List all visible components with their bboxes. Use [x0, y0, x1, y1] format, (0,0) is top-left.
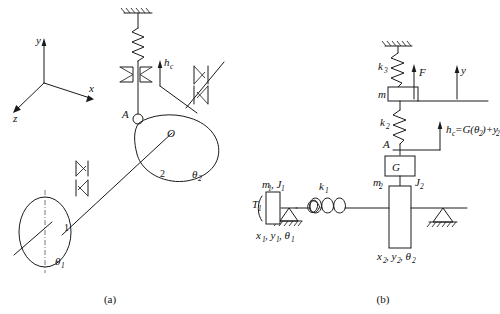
hc-expr-rest: =G(θ	[455, 123, 480, 136]
coords2-y: , y	[386, 250, 397, 262]
k1-label-sub: 1	[325, 186, 329, 195]
rotor-block-2	[389, 186, 411, 248]
rotor-block-1	[266, 192, 280, 224]
coords1-theta: , θ	[279, 229, 291, 241]
coords2-x: x	[376, 250, 382, 262]
k3-label-sub: 3	[383, 66, 388, 75]
axis-z-label: z	[12, 112, 18, 124]
coords2-group: x 2 , y 2 , θ 2	[376, 250, 416, 265]
force-f-label: F	[418, 66, 426, 78]
coil-spring-k1	[296, 198, 345, 213]
figure-root: y x z	[0, 0, 500, 314]
gear-block-G	[385, 156, 415, 176]
panel-a: y x z	[12, 8, 224, 306]
axis-y-label: y	[35, 34, 41, 46]
theta1-label-a-sub: 1	[61, 261, 65, 270]
j1-label-sub: 1	[281, 184, 285, 193]
axis-z-line	[16, 83, 44, 110]
coords2-theta: , θ	[400, 250, 412, 262]
drive-shaft-line	[62, 133, 172, 235]
follower-pin-circle	[133, 114, 143, 124]
cam-contact-line	[160, 86, 197, 113]
coil-spring-k2	[393, 110, 406, 144]
fixed-support-hatching-a	[121, 8, 152, 13]
cam-profile-body	[135, 115, 219, 182]
point-a-label-b: A	[382, 138, 390, 150]
cam-number-label: 2	[160, 168, 165, 179]
axis-x-arrowhead	[86, 95, 94, 102]
coords1-x: x	[255, 229, 261, 241]
coil-spring-a	[132, 28, 144, 61]
coordinate-triad: y x z	[12, 34, 94, 124]
displacement-arrow-hc-a	[158, 60, 163, 86]
k2-label-sub: 2	[386, 122, 390, 131]
axis-arrow-y-b	[455, 65, 460, 99]
figure-canvas: y x z	[0, 0, 500, 314]
m1j1-group: m 1 , J 1	[262, 178, 285, 193]
caption-b: (b)	[377, 293, 390, 306]
bearing-symbol-lower-a	[76, 161, 88, 196]
gear-g-label: G	[392, 161, 400, 173]
theta2-label-a-sub: 2	[198, 174, 202, 183]
caption-a: (a)	[104, 293, 117, 306]
torque-t1-label-sub: 1	[258, 204, 262, 213]
bearing-symbol-upper-a	[186, 62, 224, 108]
point-o-label: O	[167, 127, 175, 139]
triangle-ground-support-right	[427, 208, 457, 227]
coords1-y: , y	[265, 229, 276, 241]
hc-label-a-sub: c	[170, 62, 174, 71]
point-a-label-a: A	[121, 108, 129, 120]
coords1-theta-sub: 1	[291, 235, 295, 244]
hc-expression-b: h c =G(θ 2 )+y 2	[446, 123, 500, 138]
j2-label-sub: 2	[420, 182, 424, 191]
disk1-number-label: 1	[64, 222, 69, 233]
m2-label-sub: 2	[379, 182, 383, 191]
mass-m-label: m	[378, 88, 386, 100]
fixed-ceiling-hatching-b	[382, 41, 412, 46]
displacement-arrow-hc-b	[438, 121, 443, 150]
coil-spring-k3	[391, 53, 404, 87]
hc-expr-tail-sub: 2	[496, 129, 500, 138]
damper-element-a	[120, 67, 152, 82]
axis-x-line	[44, 83, 90, 98]
axis-y-arrowhead	[42, 38, 47, 46]
axis-x-label: x	[88, 82, 94, 94]
coords2-theta-sub: 2	[412, 256, 416, 265]
axis-y-label-b: y	[460, 64, 466, 76]
coords1-group: x 1 , y 1 , θ 1	[255, 229, 295, 244]
panel-b: k 3 m F y k 2	[252, 41, 500, 306]
